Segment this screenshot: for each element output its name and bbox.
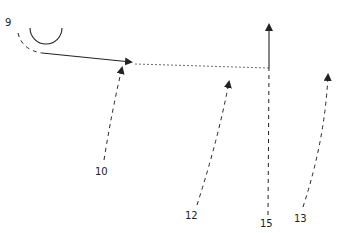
- player-label-9: 9: [5, 17, 11, 28]
- route-10: [104, 68, 122, 160]
- play-diagram: 9 10 12 15 13: [0, 0, 350, 233]
- route-12: [197, 82, 229, 205]
- route-9-dashed: [18, 33, 42, 53]
- player-label-12: 12: [185, 210, 198, 221]
- player-label-15: 15: [260, 218, 273, 229]
- player-label-13: 13: [294, 213, 307, 224]
- dotted-line: [135, 64, 269, 68]
- screen-arc: [30, 28, 62, 44]
- player-label-10: 10: [95, 166, 108, 177]
- route-15-dashed: [268, 68, 269, 215]
- route-9-solid: [42, 53, 131, 62]
- route-13: [303, 75, 328, 207]
